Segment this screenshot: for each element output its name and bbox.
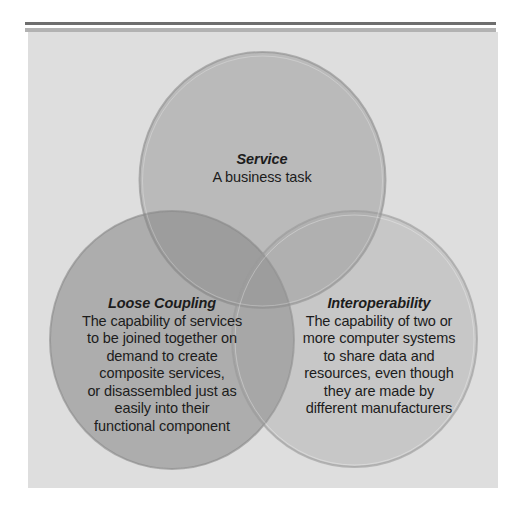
service-description: A business task [192,169,332,187]
interoperability-line: to share data and [284,348,474,366]
loose-coupling-line: to be joined together on [62,330,262,348]
loose-coupling-line: The capability of services [62,313,262,331]
interoperability-title: Interoperability [284,295,474,313]
interoperability-line: more computer systems [284,330,474,348]
interoperability-line: resources, even though [284,365,474,383]
service-label: Service A business task [192,151,332,186]
interoperability-line: The capability of two or [284,313,474,331]
loose-coupling-line: easily into their [62,400,262,418]
loose-coupling-label: Loose Coupling The capability of service… [62,295,262,435]
loose-coupling-line: composite services, [62,365,262,383]
loose-coupling-line: functional component [62,418,262,436]
loose-coupling-line: or disassembled just as [62,383,262,401]
interoperability-line: they are made by [284,383,474,401]
loose-coupling-title: Loose Coupling [62,295,262,313]
interoperability-line: different manufacturers [284,400,474,418]
venn-diagram [0,0,525,512]
loose-coupling-line: demand to create [62,348,262,366]
interoperability-label: Interoperability The capability of two o… [284,295,474,418]
service-title: Service [192,151,332,169]
